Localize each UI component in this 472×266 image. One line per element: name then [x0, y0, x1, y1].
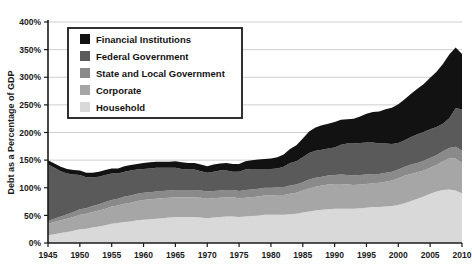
legend-label: Federal Government: [96, 51, 189, 62]
y-tick-label: 250%: [19, 100, 41, 110]
legend-swatch-household: [80, 102, 90, 112]
x-tick-label: 1995: [357, 250, 376, 260]
legend-swatch-state-and-local-government: [80, 68, 90, 78]
y-tick-label: 100%: [19, 183, 41, 193]
x-tick-label: 1990: [325, 250, 344, 260]
x-tick-label: 1970: [198, 250, 217, 260]
legend-swatch-corporate: [80, 85, 90, 95]
legend-label: State and Local Government: [96, 68, 226, 79]
x-tick-label: 2005: [421, 250, 440, 260]
y-tick-label: 150%: [19, 155, 41, 165]
x-tick-label: 1950: [70, 250, 89, 260]
x-tick-label: 1955: [102, 250, 121, 260]
chart-legend: Financial InstitutionsFederal Government…: [68, 28, 242, 118]
y-tick-label: 350%: [19, 45, 41, 55]
chart-canvas: 0%50%100%150%200%250%300%350%400% 194519…: [0, 0, 472, 266]
x-tick-label: 1945: [39, 250, 58, 260]
y-tick-label: 400%: [19, 17, 41, 27]
legend-swatch-financial-institutions: [80, 34, 90, 44]
y-tick-label: 200%: [19, 128, 41, 138]
legend-label: Financial Institutions: [96, 34, 191, 45]
x-tick-label: 1960: [134, 250, 153, 260]
x-tick-label: 2010: [453, 250, 472, 260]
y-tick-label: 300%: [19, 72, 41, 82]
y-axis-title: Debt as a Percentage of GDP: [6, 70, 16, 194]
y-tick-label: 50%: [24, 211, 41, 221]
x-tick-label: 1975: [230, 250, 249, 260]
x-tick-label: 1965: [166, 250, 185, 260]
debt-to-gdp-stacked-area-chart: 0%50%100%150%200%250%300%350%400% 194519…: [0, 0, 472, 266]
x-tick-label: 1985: [293, 250, 312, 260]
legend-swatch-federal-government: [80, 51, 90, 61]
x-tick-label: 1980: [261, 250, 280, 260]
x-tick-label: 2000: [389, 250, 408, 260]
legend-label: Corporate: [96, 85, 141, 96]
legend-label: Household: [96, 102, 145, 113]
y-tick-label: 0%: [29, 238, 42, 248]
